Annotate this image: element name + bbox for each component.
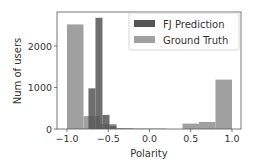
ground-truth-bar [216,80,233,129]
x-tick-label: 0.5 [183,133,198,144]
fj-prediction-bar [109,126,116,129]
legend-label-ground-truth: Ground Truth [163,35,228,46]
legend: FJ Prediction Ground Truth [129,13,239,50]
x-tick-label: −0.5 [97,133,120,144]
y-tick-label: 2000 [28,41,52,52]
y-tick-label: 0 [46,124,52,135]
ground-truth-bar [199,122,216,129]
ground-truth-bar [183,124,200,129]
fj-prediction-bar [102,115,109,129]
legend-swatch-ground-truth [134,36,155,43]
histogram-chart: −1.0−0.50.00.51.0 010002000 Polarity Num… [0,0,255,165]
x-tick-label: 1.0 [224,133,239,144]
ground-truth-bar [67,24,84,129]
y-tick-label: 1000 [28,82,52,93]
legend-label-fj-prediction: FJ Prediction [163,19,225,30]
x-axis: −1.0−0.50.00.51.0 [55,129,239,144]
x-tick-label: −1.0 [55,133,78,144]
y-axis-label: Num of users [12,38,23,105]
legend-swatch-fj-prediction [134,20,155,27]
y-axis: 010002000 [28,41,57,135]
x-tick-label: 0.0 [142,133,157,144]
fj-prediction-bar [95,18,102,129]
x-axis-label: Polarity [130,148,168,159]
fj-prediction-bar [88,88,95,129]
